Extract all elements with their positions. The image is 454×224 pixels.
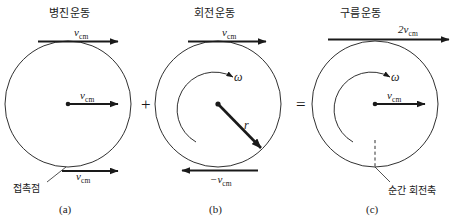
panel-c-center-velocity-label: vcm	[387, 89, 401, 104]
panel-a-top-velocity-label: vcm	[74, 26, 88, 41]
equals-operator: =	[296, 96, 306, 113]
v-subscript: cm	[79, 32, 89, 41]
v-subscript: cm	[227, 32, 237, 41]
v-subscript: cm	[408, 29, 418, 38]
panel-b-omega-spiral	[177, 72, 233, 142]
v-subscript: cm	[85, 95, 95, 104]
panel-a-caption: (a)	[59, 203, 71, 215]
panel-c-omega-spiral	[334, 72, 390, 142]
panel-c-top-velocity-label: 2vcm	[398, 23, 418, 38]
panel-b-bottom-velocity-label: −vcm	[210, 173, 232, 188]
contact-point-label: 접촉점	[13, 180, 40, 195]
panel-c-caption: (c)	[366, 203, 378, 215]
panel-a-center-velocity-label: vcm	[80, 89, 94, 104]
panel-b-radius-label: r	[244, 118, 249, 133]
panel-b-radius-arrow	[218, 104, 261, 148]
v-subscript: cm	[222, 179, 232, 188]
v-subscript: cm	[81, 176, 91, 185]
instantaneous-axis-label: 순간 회전축	[388, 182, 436, 197]
panel-b-omega-label: ω	[234, 70, 242, 85]
v-subscript: cm	[392, 95, 402, 104]
panel-b-caption: (b)	[209, 203, 222, 215]
panel-c-instantaneous-axis-leader	[375, 167, 390, 182]
panel-a-contact-point-leader	[47, 167, 66, 182]
plus-operator: +	[141, 96, 151, 113]
rolling-motion-figure: 병진운동 회전운동 구름운동	[0, 0, 454, 224]
panel-c-omega-label: ω	[391, 70, 399, 85]
panel-a-bottom-velocity-label: vcm	[76, 170, 90, 185]
panel-b-top-velocity-label: vcm	[222, 26, 236, 41]
